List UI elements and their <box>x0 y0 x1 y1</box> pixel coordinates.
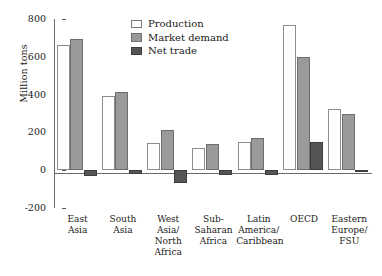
chart-legend: ProductionMarket demandNet trade <box>131 17 229 58</box>
x-axis-label: West Asia/ North Africa <box>146 214 191 258</box>
bar-demand <box>161 130 174 171</box>
bar-demand <box>70 39 83 170</box>
legend-swatch-production <box>131 20 142 29</box>
legend-label: Market demand <box>148 31 229 45</box>
x-axis-label: East Asia <box>55 214 100 236</box>
bar-production <box>328 109 341 170</box>
bar-nettrade <box>265 170 278 175</box>
y-tick-label: 200 <box>12 127 46 137</box>
legend-item: Net trade <box>131 44 229 58</box>
bar-demand <box>115 92 128 170</box>
y-tick-mark <box>62 208 66 209</box>
bar-production <box>238 142 251 170</box>
y-tick-label: 800 <box>12 14 46 24</box>
y-tick-label: 600 <box>12 52 46 62</box>
bar-production <box>57 45 70 170</box>
legend-item: Market demand <box>131 31 229 45</box>
bar-group <box>236 19 281 208</box>
bar-group <box>55 19 100 208</box>
bar-nettrade <box>355 170 368 172</box>
bar-group <box>281 19 326 208</box>
x-axis-label: South Asia <box>100 214 145 236</box>
legend-swatch-nettrade <box>131 47 142 56</box>
legend-label: Production <box>148 17 204 31</box>
bar-demand <box>342 114 355 171</box>
bar-production <box>192 148 205 170</box>
bar-production <box>147 143 160 171</box>
bar-nettrade <box>84 170 97 176</box>
legend-swatch-demand <box>131 33 142 42</box>
bar-demand <box>297 57 310 170</box>
y-tick-label: 400 <box>12 90 46 100</box>
y-tick-label: 0 <box>12 165 46 175</box>
x-axis-label: OECD <box>281 214 326 225</box>
bar-nettrade <box>174 170 187 183</box>
bar-chart: Million tons 8006004002000-200 East Asia… <box>0 0 382 276</box>
legend-item: Production <box>131 17 229 31</box>
bar-nettrade <box>129 170 142 174</box>
bar-production <box>102 96 115 170</box>
legend-label: Net trade <box>148 44 197 58</box>
bar-group <box>327 19 372 208</box>
bar-demand <box>251 138 264 171</box>
bar-nettrade <box>219 170 232 175</box>
y-tick-label: -200 <box>12 203 46 213</box>
y-axis-title: Million tons <box>18 4 29 144</box>
bar-production <box>283 25 296 171</box>
x-axis-label: Eastern Europe/ FSU <box>327 214 372 247</box>
x-axis-label: Latin America/ Caribbean <box>236 214 281 247</box>
bar-demand <box>206 144 219 170</box>
x-axis-label: Sub- Saharan Africa <box>191 214 236 247</box>
bar-nettrade <box>310 142 323 170</box>
